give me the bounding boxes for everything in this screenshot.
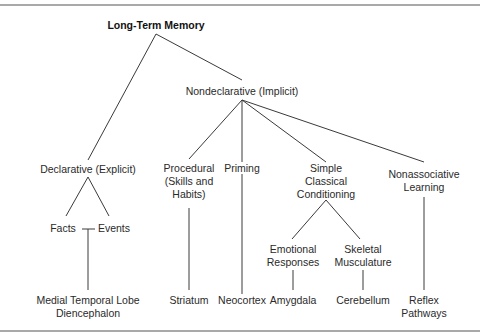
node-nondeclarative: Nondeclarative (Implicit) <box>186 85 299 97</box>
node-procedural-line2: (Skills and <box>165 175 214 187</box>
node-striatum: Striatum <box>169 294 208 306</box>
node-emotional-line2: Responses <box>267 256 320 268</box>
root-node-long-term-memory: Long-Term Memory <box>107 19 204 31</box>
node-classical-line1: Simple <box>310 162 342 174</box>
node-skeletal-line1: Skeletal <box>344 243 381 255</box>
node-pathways: Pathways <box>401 307 447 319</box>
node-amygdala: Amygdala <box>270 294 317 306</box>
node-procedural-line1: Procedural <box>164 162 215 174</box>
memory-taxonomy-diagram: Long-Term Memory Nondeclarative (Implici… <box>0 0 480 333</box>
node-events: Events <box>98 222 130 234</box>
node-nonassociative-line1: Nonassociative <box>388 168 459 180</box>
node-procedural-line3: Habits) <box>172 188 205 200</box>
node-medial-temporal-lobe: Medial Temporal Lobe <box>36 294 139 306</box>
node-skeletal-line2: Musculature <box>334 256 391 268</box>
node-emotional-line1: Emotional <box>270 243 317 255</box>
node-classical-line3: Conditioning <box>297 188 356 200</box>
node-nonassociative-line2: Learning <box>404 181 445 193</box>
node-facts: Facts <box>50 222 76 234</box>
node-diencephalon: Diencephalon <box>56 307 120 319</box>
diagram-canvas: Long-Term Memory Nondeclarative (Implici… <box>0 0 480 333</box>
node-declarative: Declarative (Explicit) <box>40 163 136 175</box>
node-priming: Priming <box>224 162 260 174</box>
node-reflex: Reflex <box>409 294 440 306</box>
node-neocortex: Neocortex <box>218 294 267 306</box>
node-classical-line2: Classical <box>305 175 347 187</box>
node-cerebellum: Cerebellum <box>336 294 390 306</box>
